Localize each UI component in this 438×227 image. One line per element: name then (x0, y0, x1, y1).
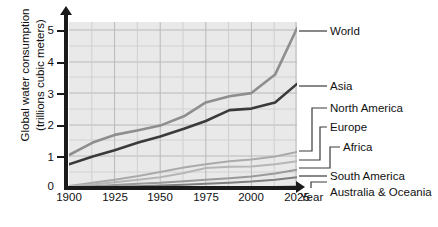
water-consumption-line-chart: Global water consumption (trillions cubi… (0, 0, 438, 227)
x-tick-label-1925: 1925 (95, 191, 135, 203)
series-label-south-america: South America (330, 170, 405, 182)
x-axis-title: Year (300, 191, 323, 203)
series-label-europe: Europe (330, 121, 367, 133)
leader-north-america (299, 108, 327, 151)
x-tick-label-1975: 1975 (186, 191, 226, 203)
x-tick-label-2000: 2000 (231, 191, 271, 203)
y-axis-arrow-icon (60, 6, 72, 15)
plot-area (69, 22, 297, 189)
leader-europe (299, 127, 327, 160)
y-axis-line (64, 12, 68, 190)
series-label-north-america: North America (330, 102, 403, 114)
series-label-africa: Africa (343, 141, 372, 153)
series-label-australia-oceania: Australia & Oceania (330, 186, 432, 198)
series-label-asia: Asia (330, 80, 352, 92)
series-label-world: World (330, 25, 360, 37)
x-tick-label-1950: 1950 (140, 191, 180, 203)
x-tick-label-1900: 1900 (49, 191, 89, 203)
plot-svg (69, 22, 297, 189)
y-axis-title-line1: Global water consumption (19, 9, 31, 142)
leader-africa (299, 147, 340, 168)
x-axis-line (64, 186, 299, 190)
leader-australia-oceania (311, 182, 327, 188)
